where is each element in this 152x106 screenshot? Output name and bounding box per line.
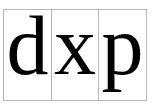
glyph-letter: d [7, 4, 49, 88]
glyph-cell-p: p [99, 10, 146, 100]
glyph-letter: x [54, 4, 96, 88]
glyph-grid: d x p [3, 9, 147, 101]
glyph-cell-x: x [52, 10, 99, 100]
glyph-letter: p [102, 4, 144, 88]
glyph-cell-d: d [4, 10, 52, 100]
